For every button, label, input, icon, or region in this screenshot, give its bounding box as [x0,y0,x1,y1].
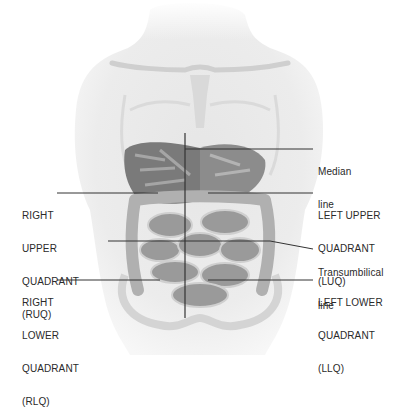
llq-label-line: (LLQ) [318,363,383,374]
ruq-label-line: UPPER [22,243,79,254]
rlq-label-line: (RLQ) [22,396,79,407]
rlq-label: RIGHT LOWER QUADRANT (RLQ) [22,275,79,411]
rlq-label-line: RIGHT [22,297,79,308]
llq-label-line: LEFT LOWER [318,297,383,308]
luq-label-line: LEFT UPPER [318,210,381,221]
ruq-label-line: RIGHT [22,210,79,221]
rlq-label-line: QUADRANT [22,363,79,374]
rlq-label-line: LOWER [22,330,79,341]
llq-label-line: QUADRANT [318,330,383,341]
median-label-line: Median [318,166,351,177]
llq-label: LEFT LOWER QUADRANT (LLQ) [318,275,383,396]
